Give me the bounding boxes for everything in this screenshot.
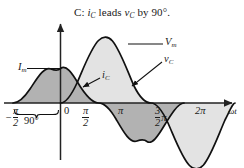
fraction-numerator: 3 [155, 106, 160, 118]
fraction-suffix-pi: π [161, 112, 166, 123]
vc-annotation-arrow [132, 62, 162, 86]
minus-sign: − [5, 112, 12, 123]
tick-three-pi-over-2: 3 2 π [155, 106, 167, 128]
fraction-denominator: 2 [155, 118, 160, 129]
fraction-denominator: 2 [13, 118, 18, 129]
tick-minus-pi-over-2: − π 2 [5, 106, 18, 128]
fraction-pi-2: π 2 [13, 106, 18, 128]
vm-label: Vm [165, 37, 176, 49]
vc-label: vC [164, 54, 173, 66]
x-axis-label: ωt [228, 107, 237, 116]
im-label: Im [18, 62, 27, 74]
ic-label: iC [102, 70, 110, 82]
tick-pi: π [118, 106, 123, 117]
tick-two-pi: 2π [195, 106, 206, 117]
fraction-3-2: 3 2 [155, 106, 160, 128]
tick-pi-over-2: π 2 [82, 106, 89, 128]
phase-brace-label: 90° [24, 116, 39, 127]
fraction-numerator: π [82, 106, 89, 118]
fraction-numerator: π [13, 106, 18, 118]
fraction-denominator: 2 [82, 118, 89, 129]
figure-container: C: iC leads vC by 90°. [0, 0, 244, 168]
tick-zero: 0 [64, 106, 69, 117]
waveform-plot [0, 0, 244, 168]
